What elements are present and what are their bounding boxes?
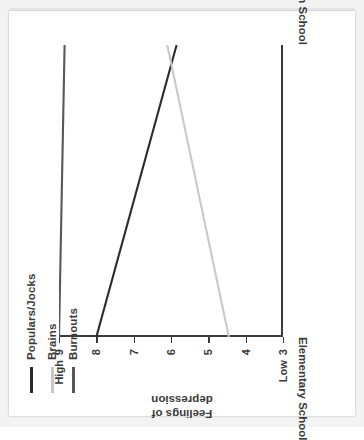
y-axis-tick-mark-8 [96,337,97,343]
y-axis-tick-label-8: 8 [90,349,102,401]
y-axis-tick-mark-4 [246,337,247,343]
y-axis-tick-number: 4 [240,349,252,355]
y-axis-tick-label-3: Low3 [277,349,289,401]
y-axis-tick-number: 8 [90,349,102,355]
y-axis-tick-mark-5 [208,337,209,343]
rotated-figure-wrapper: Populars/Jocks Brains Burnouts Feeling [17,27,347,401]
y-axis-tick-label-9: High9 [53,349,65,401]
legend-swatch-burnouts [72,367,75,393]
y-axis-tick-number: 3 [277,349,289,355]
chart-sheet: Populars/Jocks Brains Burnouts Feeling [9,11,355,416]
y-axis-tick-label-7: 7 [128,349,140,401]
y-axis-tick-number: 5 [202,349,214,355]
legend-item-populars-jocks[interactable]: Populars/Jocks [25,273,37,392]
y-axis-tick-label-5: 5 [202,349,214,401]
x-category-elementary-school: Elementary School [297,337,309,440]
y-axis-title-line-1: Feelings of [107,407,257,421]
y-axis-tick-mark-7 [134,337,135,343]
x-category-high-school: High School [297,0,309,45]
plot-area [59,45,283,337]
series-line-brains[interactable] [167,45,229,337]
y-axis-tick-mark-9 [59,337,60,343]
y-axis-tick-mark-3 [283,337,284,343]
y-axis-endcap-high: High [53,360,65,384]
series-line-populars-jocks[interactable] [96,45,176,337]
chart-lines [59,45,283,337]
chart-figure: Populars/Jocks Brains Burnouts Feeling [17,27,347,401]
y-axis-tick-number: 7 [128,349,140,355]
y-axis-tick-label-6: 6 [165,349,177,401]
legend-label-populars-jocks: Populars/Jocks [25,273,37,359]
series-line-burnouts[interactable] [59,45,65,337]
y-axis-tick-label-4: 4 [240,349,252,401]
y-axis-tick-number: 6 [165,349,177,355]
legend-swatch-populars-jocks [30,367,33,393]
y-axis-endcap-low: Low [277,360,289,382]
y-axis-tick-mark-6 [171,337,172,343]
y-axis-tick-number: 9 [53,349,65,355]
